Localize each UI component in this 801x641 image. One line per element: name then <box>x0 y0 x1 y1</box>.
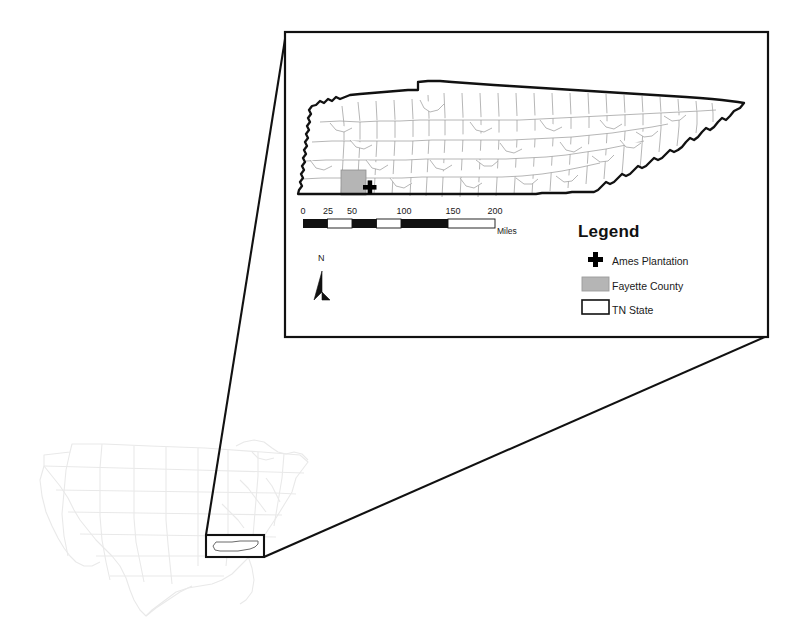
legend-item-label-ames-plantation: Ames Plantation <box>612 255 688 267</box>
scale-tick-label-25: 25 <box>323 206 333 216</box>
legend-item-label-fayette-county: Fayette County <box>612 280 683 292</box>
legend-fayette-swatch <box>582 277 609 291</box>
locator-map-figure: Legend Ames Plantation Fayette County TN… <box>0 0 801 641</box>
scale-tick-label-100: 100 <box>396 206 411 216</box>
scale-unit-label: Miles <box>497 226 517 236</box>
scale-tick-label-0: 0 <box>300 206 305 216</box>
north-arrow-label: N <box>318 253 325 263</box>
scale-tick-label-200: 200 <box>487 206 502 216</box>
scale-tick-label-150: 150 <box>445 206 460 216</box>
legend-title: Legend <box>578 222 640 242</box>
legend-item-label-tn-state: TN State <box>612 304 653 316</box>
fayette-county-polygon <box>341 170 366 195</box>
legend-tnstate-swatch <box>582 300 609 314</box>
scale-bar <box>303 219 495 228</box>
inset-panel <box>0 0 801 641</box>
scale-tick-label-50: 50 <box>347 206 357 216</box>
